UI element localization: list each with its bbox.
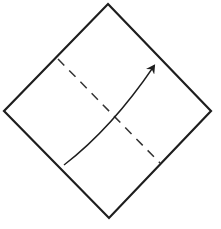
- paper-square: [4, 4, 211, 218]
- valley-fold-line: [58, 59, 160, 163]
- fold-direction-arrow-icon: [64, 66, 154, 165]
- diagram-canvas: [0, 0, 221, 229]
